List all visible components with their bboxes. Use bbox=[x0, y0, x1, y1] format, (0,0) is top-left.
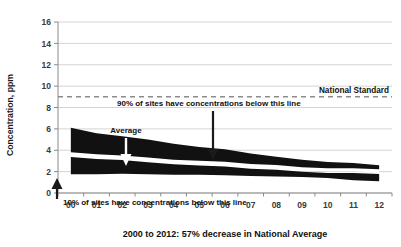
y-tick-label-2: 2 bbox=[46, 167, 51, 177]
national-standard-label: National Standard bbox=[319, 86, 389, 95]
y-tick-label-14: 14 bbox=[42, 39, 52, 49]
x-tick-label-07: 07 bbox=[246, 200, 256, 210]
x-tick-label-11: 11 bbox=[349, 200, 358, 210]
y-tick-label-12: 12 bbox=[42, 60, 52, 70]
concentration-trend-chart: 0246810121416 00010203040506070809101112… bbox=[0, 0, 401, 247]
x-tick-label-10: 10 bbox=[323, 200, 333, 210]
y-tick-label-10: 10 bbox=[42, 81, 52, 91]
y-axis-title: Concentration, ppm bbox=[5, 74, 15, 156]
chart-caption: 2000 to 2012: 57% decrease in National A… bbox=[123, 229, 327, 239]
lower-band-annotation-label: 10% of sites have concentrations below t… bbox=[63, 198, 247, 207]
y-tick-label-16: 16 bbox=[42, 17, 52, 27]
x-tick-label-09: 09 bbox=[297, 200, 307, 210]
y-tick-label-4: 4 bbox=[46, 145, 51, 155]
average-annotation-label: Average bbox=[110, 126, 142, 135]
upper-band-annotation-label: 90% of sites have concentrations below t… bbox=[117, 99, 301, 108]
y-tick-label-6: 6 bbox=[46, 124, 51, 134]
y-tick-label-8: 8 bbox=[46, 103, 51, 113]
x-tick-label-12: 12 bbox=[374, 200, 384, 210]
y-tick-label-0: 0 bbox=[46, 188, 51, 198]
chart-canvas: 0246810121416 00010203040506070809101112… bbox=[0, 0, 401, 247]
x-tick-label-08: 08 bbox=[272, 200, 282, 210]
